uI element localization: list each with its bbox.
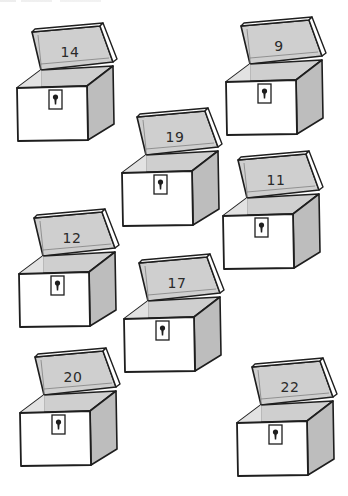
treasure-chest: 12 [17, 212, 117, 330]
treasure-chest: 20 [18, 351, 118, 469]
worksheet-page: 14 9 19 [0, 0, 348, 496]
treasure-chest: 11 [221, 154, 321, 272]
treasure-chest: 22 [235, 361, 335, 479]
chest-number: 20 [48, 369, 98, 385]
chest-number: 19 [150, 129, 200, 145]
chest-number: 17 [152, 275, 202, 291]
treasure-chest: 9 [224, 20, 324, 138]
chest-number: 14 [45, 44, 95, 60]
chest-number: 11 [251, 172, 301, 188]
chest-number: 22 [265, 379, 315, 395]
treasure-chest: 17 [122, 257, 222, 375]
treasure-chest: 19 [120, 111, 220, 229]
cropped-header-text [0, 0, 130, 2]
chest-number: 9 [254, 38, 304, 54]
treasure-chest: 14 [15, 26, 115, 144]
chest-number: 12 [47, 230, 97, 246]
